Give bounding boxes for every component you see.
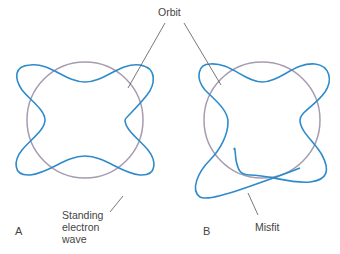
misfit-label: Misfit: [255, 221, 280, 233]
orbit-leader-b: [184, 23, 221, 85]
standing-wave-label-line3: wave: [62, 233, 103, 245]
panel-label-a: A: [15, 225, 22, 237]
standing-wave-leader: [110, 196, 123, 212]
standing-wave-a: [16, 65, 154, 175]
panel-b-text: B: [203, 225, 210, 237]
misfit-label-text: Misfit: [255, 221, 280, 233]
diagram-canvas: [0, 0, 340, 254]
standing-wave-label-line2: electron: [62, 221, 103, 233]
orbit-label-text: Orbit: [158, 6, 181, 18]
panel-a-text: A: [15, 225, 22, 237]
misfit-leader: [248, 193, 258, 215]
standing-wave-label-line1: Standing: [62, 209, 103, 221]
standing-wave-label: Standing electron wave: [62, 209, 103, 245]
orbit-leader-a: [128, 23, 165, 88]
orbit-circle-b: [204, 62, 320, 178]
panel-label-b: B: [203, 225, 210, 237]
orbit-label: Orbit: [158, 6, 181, 18]
